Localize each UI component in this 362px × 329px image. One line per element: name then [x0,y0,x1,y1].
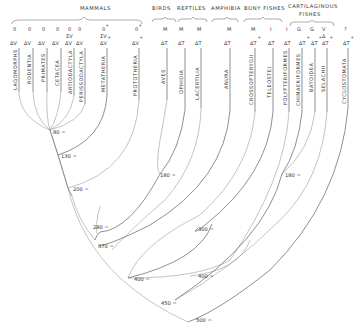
taxon-labels: LAGOMORPHS RODENTIA PRIMATES CETACEA ART… [12,49,347,106]
code: ΔV [10,40,17,46]
polypteriformes-branch [128,112,289,278]
code: ΔT [178,40,185,46]
age-label-280: 280 = [93,224,109,230]
group-label-mammals: MAMMALS [80,5,111,11]
top-code: I [286,26,287,32]
age-label-130: 130 = [61,153,77,159]
codes-row: ΔV ΔV ΔV ΔV ΔV ΔV ΔV ΔV ΔT ΔT ΔT ΔT ΔT Δ… [10,35,354,46]
top-code: M [251,26,255,32]
code: ΔV [132,40,139,46]
star-marker: * [307,35,310,41]
chimaeriformes-branch [282,112,302,174]
age-label-400-left: 400 = [134,276,150,282]
code: ΔT [322,40,329,46]
group-label-fishes: FISHES [299,11,321,17]
age-label-80: 80 = [53,129,66,135]
taxon-label: PERISSODACTYLA [78,50,84,102]
top-code: M [179,26,183,32]
top-code: V [322,26,326,32]
taxon-label: CYCLOSTOMATA [341,58,347,104]
top-code: G [297,26,301,32]
age-label-450: 450 = [161,300,177,306]
taxon-label: LACERTILIA [194,67,200,100]
teleostei-branch [195,112,273,231]
top-code: 0 [42,26,45,32]
code: ΔV [52,40,59,46]
code: ΔT [343,40,350,46]
star-marker: * [258,35,261,41]
code: ΔT [299,40,306,46]
sauropsid-branch [95,174,160,240]
star-marker: * [108,35,111,41]
taxon-label: POLYPTERIFORMES [282,50,288,105]
taxon-label: CROSSOPTERYGII [248,55,254,105]
top-codes-row: 0 0 0 0 0 0 0 0 M M M M M I I G G V ? * … [13,23,347,32]
code: ΔT [284,40,291,46]
group-label-cartilaginous: CARTILAGINOUS [288,3,338,9]
taxon-label: PROTOTHERIA [132,55,138,96]
taxon-label: LAGOMORPHS [12,49,18,90]
star-marker: * [330,35,333,41]
bony-fishes-brace [244,17,282,22]
taxon-label: ARTIODACTYLA [67,50,73,94]
star-marker: * [140,35,143,41]
star-marker: * [139,23,142,29]
top-code: 0 [13,26,16,32]
top-code: 0 [102,26,105,32]
code: ΔV [76,40,83,46]
top-code: ? [344,26,347,32]
taxon-label: AVES [160,69,166,84]
group-label-bony-fishes: BONY FISHES [244,5,285,11]
taxon-label: ANURA [223,69,229,89]
placental-branches [19,92,85,130]
top-code: M [163,26,167,32]
phylogenetic-tree-diagram: MAMMALS BIRDS REPTILES AMPHIBIA BONY FIS… [0,0,362,329]
aves-branch [158,100,168,174]
group-label-birds: BIRDS [152,5,171,11]
crossopterygii-branch [128,112,255,278]
taxon-label: PRIMATES [40,53,46,82]
top-code: 0 [68,26,71,32]
birds-brace [152,17,176,22]
taxon-label: TELEOSTEI [266,67,272,99]
age-label-400-right: 400 = [198,273,214,279]
age-label-180-right: 180 = [285,172,301,178]
code: ΔV [38,40,45,46]
extra-marker: Δ [322,33,326,39]
age-label-500: 500 = [196,317,212,323]
top-code: M [197,26,201,32]
code: ΔT [161,40,168,46]
lacertilia-branch [112,108,201,250]
amphibia-brace [212,17,238,22]
code: ΔV [24,40,31,46]
age-labels: 80 = 130 = 200 = 180 = 280 = 370 = 300 =… [53,129,301,323]
group-label-reptiles: REPTILES [177,5,206,11]
taxon-label: BATOIDEA [308,63,314,92]
top-code: 0 [28,26,31,32]
code: ΔV [100,40,107,46]
code: ΔV [65,40,72,46]
reptiles-brace [178,17,207,22]
age-label-370: 370 = [98,243,114,249]
code: ΔT [268,40,275,46]
elasmobranch-branch [175,174,282,300]
batoidea-branch [282,112,315,174]
taxon-label: CETACEA [54,60,60,86]
taxon-label: OPHIDIA [178,69,184,94]
extra-marker: ΣV [100,33,107,39]
group-label-amphibia: AMPHIBIA [211,5,241,11]
taxon-label: RODENTIA [26,54,32,84]
star-marker: * [106,23,109,29]
top-code: 0 [56,26,59,32]
age-label-200: 200 = [73,186,89,192]
taxon-label: CHIMAERIFORMES [295,53,301,106]
age-label-180-left: 180 = [160,172,176,178]
top-code: I [270,26,271,32]
code: ΔT [224,40,231,46]
extra-marker: ΣV [66,33,73,39]
code: ΔT [250,40,257,46]
mammals-brace [12,17,142,24]
star-marker: * [351,35,354,41]
synapsid-link [72,196,95,240]
prototheria-branch [68,100,139,188]
